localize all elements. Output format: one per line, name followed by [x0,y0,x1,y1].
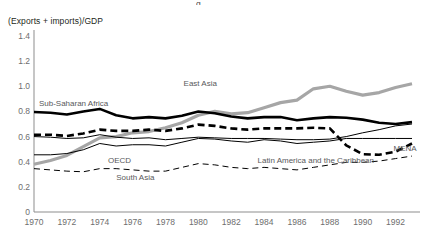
series-label-5: South Asia [116,173,154,182]
series-label-3: Latin America and the Caribbean [258,156,375,165]
series-line-0 [34,84,412,164]
series-label-4: OECD [108,156,131,165]
chart-plot-area [0,0,422,243]
chart-container: g (Exports + imports)/GDP 1.41.21.00.80.… [0,0,422,243]
series-label-2: MENA [394,144,417,153]
series-label-0: East Asia [184,79,217,88]
axis-lines [34,30,420,212]
series-label-1: Sub-Saharan Africa [39,99,108,108]
